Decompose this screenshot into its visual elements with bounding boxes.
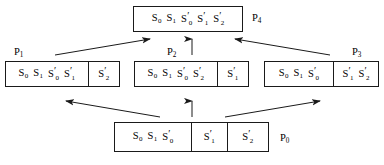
edge-p1-to-p4: [55, 39, 150, 55]
symbol-s0: S0: [16, 68, 31, 80]
symbol-s2-prime: S′2: [211, 11, 227, 26]
edge-p0-to-p3: [225, 101, 320, 117]
symbol-s0-prime: S′0: [45, 66, 61, 81]
symbol-s0: S0: [276, 68, 291, 80]
node-p4-cell-0: S0 S1 S′0 S′1 S′2: [134, 7, 242, 31]
node-p0-cell-0: S0 S1 S′0: [115, 123, 191, 151]
symbol-s0: S0: [145, 68, 160, 80]
symbol-s0-prime: S′0: [174, 66, 190, 81]
symbol-s1: S1: [291, 68, 306, 80]
node-p3-cell-0: S0 S1 S′0: [265, 62, 333, 86]
symbol-s0: S0: [130, 131, 145, 143]
node-p2-cell-1: S′1: [217, 62, 248, 86]
node-p0: S0 S1 S′0 S′1 S′2: [114, 122, 269, 152]
node-p3-cell-1: S′1 S′2: [333, 62, 378, 86]
node-p0-cell-2: S′2: [227, 123, 268, 151]
symbol-s1-prime: S′1: [225, 66, 241, 81]
node-p1-cell-1: S′2: [88, 62, 119, 86]
node-p0-cell-1: S′1: [191, 123, 227, 151]
node-p3: S0 S1 S′0 S′1 S′2: [264, 61, 379, 87]
node-p1: S0 S1 S′0 S′1 S′2: [5, 61, 120, 87]
symbol-s0: S0: [149, 13, 164, 25]
symbol-s0-prime: S′0: [306, 66, 322, 81]
node-label-p3: P3: [352, 47, 361, 59]
node-label-p4: P4: [252, 13, 261, 25]
node-label-p1: P1: [14, 47, 23, 59]
node-label-p2: P2: [167, 47, 176, 59]
symbol-s0-prime: S′0: [160, 129, 176, 144]
symbol-s1-prime: S′1: [195, 11, 211, 26]
symbol-s1: S1: [164, 13, 179, 25]
edge-p0-to-p1: [66, 101, 160, 117]
node-p1-cell-0: S0 S1 S′0 S′1: [6, 62, 88, 86]
symbol-s2-prime: S′2: [240, 129, 256, 144]
symbol-s1: S1: [160, 68, 175, 80]
symbol-s1: S1: [145, 131, 160, 143]
edge-p3-to-p4: [235, 39, 330, 55]
symbol-s0-prime: S′0: [179, 11, 195, 26]
symbol-s1-prime: S′1: [201, 129, 217, 144]
state-transition-diagram: S0 S1 S′0 S′1 S′2 P4 P1 S0 S1 S′0 S′1 S′…: [0, 0, 384, 165]
symbol-s1-prime: S′1: [340, 66, 356, 81]
node-label-p0: P0: [280, 133, 289, 145]
symbol-s1: S1: [31, 68, 46, 80]
symbol-s1-prime: S′1: [61, 66, 77, 81]
symbol-s2-prime: S′2: [356, 66, 372, 81]
node-p2: S0 S1 S′0 S′2 S′1: [134, 61, 249, 87]
symbol-s2-prime: S′2: [96, 66, 112, 81]
node-p4: S0 S1 S′0 S′1 S′2: [133, 6, 243, 32]
node-p2-cell-0: S0 S1 S′0 S′2: [135, 62, 217, 86]
symbol-s2-prime: S′2: [190, 66, 206, 81]
